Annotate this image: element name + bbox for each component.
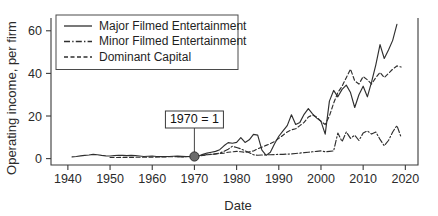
y-tick-label: 60 [28, 24, 42, 38]
x-tick-label: 2010 [349, 172, 377, 186]
chart-figure: 194019501960197019801990200020102020 020… [0, 0, 438, 216]
x-tick-label: 1980 [223, 172, 251, 186]
chart-legend: Major Filmed EntertainmentMinor Filmed E… [56, 15, 247, 70]
annotation-label: 1970 = 1 [170, 112, 219, 126]
x-axis-title: Date [224, 198, 251, 213]
y-tick-label: 0 [35, 152, 42, 166]
x-tick-label: 1970 [181, 172, 209, 186]
line-chart: 194019501960197019801990200020102020 020… [0, 0, 438, 216]
y-tick-label: 20 [28, 110, 42, 124]
x-tick-label: 1950 [96, 172, 124, 186]
y-axis-title: Operating income, per firm [4, 21, 19, 175]
x-tick-label: 2020 [391, 172, 419, 186]
x-tick-label: 2000 [307, 172, 335, 186]
x-tick-label: 1960 [138, 172, 166, 186]
legend-label-0: Major Filmed Entertainment [99, 19, 247, 33]
x-axis-ticks: 194019501960197019801990200020102020 [54, 165, 419, 186]
y-tick-label: 40 [28, 67, 42, 81]
legend-label-1: Minor Filmed Entertainment [99, 34, 247, 48]
annotation-marker [190, 152, 199, 161]
series-line-2 [110, 66, 401, 158]
legend-label-2: Dominant Capital [99, 50, 191, 64]
x-tick-label: 1940 [54, 172, 82, 186]
y-axis-ticks: 0204060 [28, 24, 51, 166]
x-tick-label: 1990 [265, 172, 293, 186]
